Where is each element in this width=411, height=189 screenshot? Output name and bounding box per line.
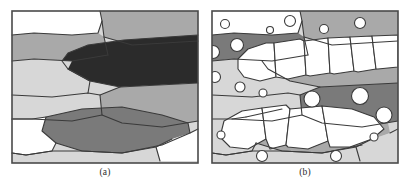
- particle-1: [221, 20, 230, 29]
- panel-b-graphic: [211, 10, 399, 164]
- particle-15: [370, 133, 378, 141]
- particle-9: [235, 82, 245, 92]
- particle-2: [267, 27, 274, 34]
- figure-root: (a) (b): [0, 0, 411, 189]
- rx-grain-2: [274, 39, 306, 79]
- particle-13: [376, 107, 392, 123]
- particle-14: [217, 131, 225, 139]
- panel-b: [211, 10, 399, 164]
- rx-grain-6: [372, 35, 398, 69]
- particle-4: [320, 25, 329, 34]
- particle-16: [257, 151, 268, 162]
- particle-7: [231, 39, 244, 52]
- particle-17: [331, 151, 342, 162]
- particle-11: [304, 91, 320, 107]
- rx-grain-5: [350, 36, 376, 72]
- caption-b: (b): [211, 166, 399, 178]
- particle-5: [355, 18, 366, 29]
- caption-a: (a): [11, 166, 199, 178]
- rx-grain-9: [286, 106, 328, 149]
- particle-12: [352, 88, 369, 105]
- particle-3: [285, 16, 296, 27]
- particle-10: [259, 89, 267, 97]
- panel-a-graphic: [11, 10, 199, 164]
- panel-a: [11, 10, 199, 164]
- top-left-white-grain: [12, 11, 102, 35]
